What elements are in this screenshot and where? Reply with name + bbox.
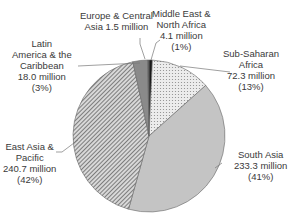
label-line: 18.0 million [12,71,72,82]
label-line: 233.3 million [234,160,287,171]
label-line: North Africa [152,19,211,30]
label-line: Caribbean [12,60,72,71]
label-line: Latin [12,38,72,49]
label-line: East Asia & [3,141,56,152]
label-line: 240.7 million [3,163,56,174]
label-line: 72.3 million [223,70,279,81]
label-line: (41%) [234,171,287,182]
label-line: Africa [223,59,279,70]
label-line: Europe & Central [80,10,153,21]
label-sub-saharan-africa: Sub-Saharan Africa 72.3 million (13%) [223,48,279,92]
label-line: Pacific [3,152,56,163]
label-line: (3%) [12,82,72,93]
label-line: Sub-Saharan [223,48,279,59]
label-line: America & the [12,49,72,60]
pie-slices [73,60,225,212]
label-latin-america-caribbean: Latin America & the Caribbean 18.0 milli… [12,38,72,93]
label-line: Asia 1.5 million [80,21,153,32]
pie-chart [0,0,294,222]
label-south-asia: South Asia 233.3 million (41%) [234,149,287,182]
label-middle-east-north-africa: Middle East & North Africa 4.1 million (… [152,8,211,52]
label-line: (13%) [223,81,279,92]
label-line: Middle East & [152,8,211,19]
label-line: (42%) [3,174,56,185]
label-europe-central-asia: Europe & Central Asia 1.5 million [80,10,153,32]
label-line: South Asia [234,149,287,160]
label-line: (1%) [152,41,211,52]
label-line: 4.1 million [152,30,211,41]
label-east-asia-pacific: East Asia & Pacific 240.7 million (42%) [3,141,56,185]
